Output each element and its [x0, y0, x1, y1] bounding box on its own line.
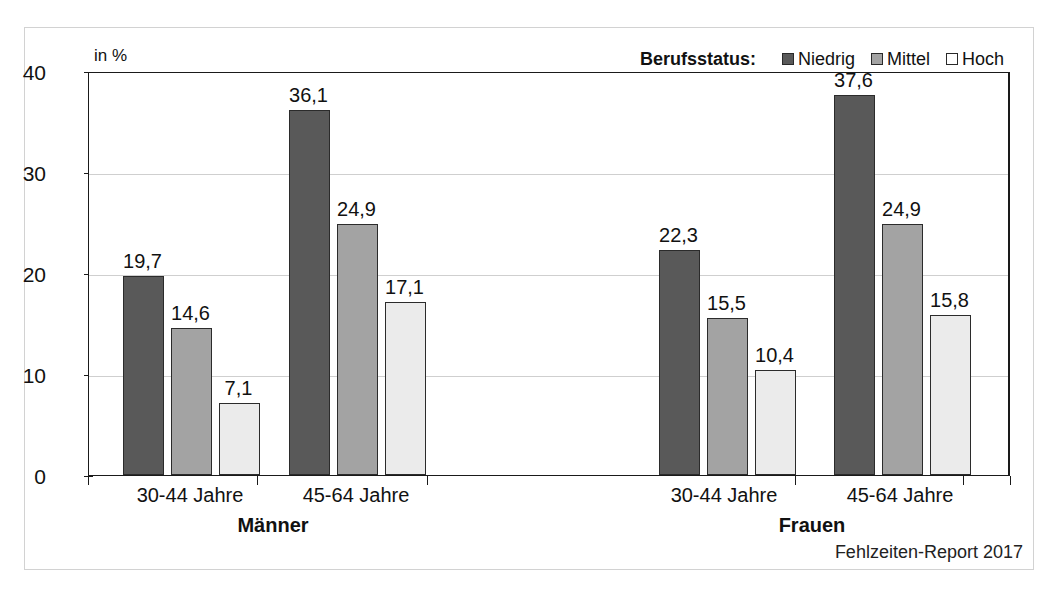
legend-item-mittel: Mittel — [871, 49, 930, 70]
legend-item-niedrig: Niedrig — [782, 49, 855, 70]
x-axis-category-label: 45-64 Jahre — [810, 484, 990, 507]
bar-value-label: 15,5 — [696, 293, 757, 313]
y-axis-tick-label: 30 — [0, 163, 46, 184]
legend-label-mittel: Mittel — [887, 49, 930, 70]
bar — [930, 315, 971, 475]
bar-value-label: 14,6 — [160, 303, 221, 323]
bar — [707, 318, 748, 475]
y-axis-tick-label: 0 — [0, 466, 46, 487]
chart-figure: in % Berufsstatus: Niedrig Mittel Hoch 0… — [0, 0, 1059, 601]
y-axis-unit-label: in % — [94, 46, 127, 66]
legend-swatch-niedrig — [782, 53, 794, 65]
bar — [659, 250, 700, 475]
x-axis-tick-mark — [88, 476, 89, 485]
bar-value-label: 36,1 — [278, 85, 339, 105]
legend-swatch-mittel — [871, 53, 883, 65]
bar — [219, 403, 260, 475]
legend-label-hoch: Hoch — [962, 49, 1004, 70]
plot-area — [88, 72, 1010, 476]
bar-value-label: 17,1 — [374, 277, 435, 297]
x-axis-category-label: 45-64 Jahre — [266, 484, 446, 507]
y-axis-tick-label: 20 — [0, 264, 46, 285]
legend-swatch-hoch — [946, 53, 958, 65]
bar — [337, 224, 378, 475]
bar-value-label: 24,9 — [326, 199, 387, 219]
bar — [755, 370, 796, 475]
legend: Berufsstatus: Niedrig Mittel Hoch — [640, 47, 1004, 71]
y-axis-tick-label: 10 — [0, 365, 46, 386]
x-axis-category-label: 30-44 Jahre — [634, 484, 814, 507]
legend-label-niedrig: Niedrig — [798, 49, 855, 70]
bar — [882, 224, 923, 475]
bar-value-label: 19,7 — [112, 251, 173, 271]
source-note: Fehlzeiten-Report 2017 — [835, 542, 1023, 563]
x-axis-group-label: Männer — [183, 514, 363, 537]
bar-value-label: 10,4 — [744, 345, 805, 365]
y-axis-tick-label: 40 — [0, 62, 46, 83]
bar-value-label: 15,8 — [919, 290, 980, 310]
bar — [123, 276, 164, 475]
bar-value-label: 7,1 — [208, 378, 269, 398]
bar-value-label: 24,9 — [871, 199, 932, 219]
legend-title: Berufsstatus: — [640, 49, 756, 70]
x-axis-tick-mark — [1010, 476, 1011, 485]
x-axis-category-label: 30-44 Jahre — [100, 484, 280, 507]
bar — [385, 302, 426, 475]
bar — [171, 328, 212, 475]
bar — [834, 95, 875, 475]
x-axis-group-label: Frauen — [722, 514, 902, 537]
bar-value-label: 22,3 — [648, 225, 709, 245]
bar-value-label: 37,6 — [823, 70, 884, 90]
legend-item-hoch: Hoch — [946, 49, 1004, 70]
bar — [289, 110, 330, 475]
